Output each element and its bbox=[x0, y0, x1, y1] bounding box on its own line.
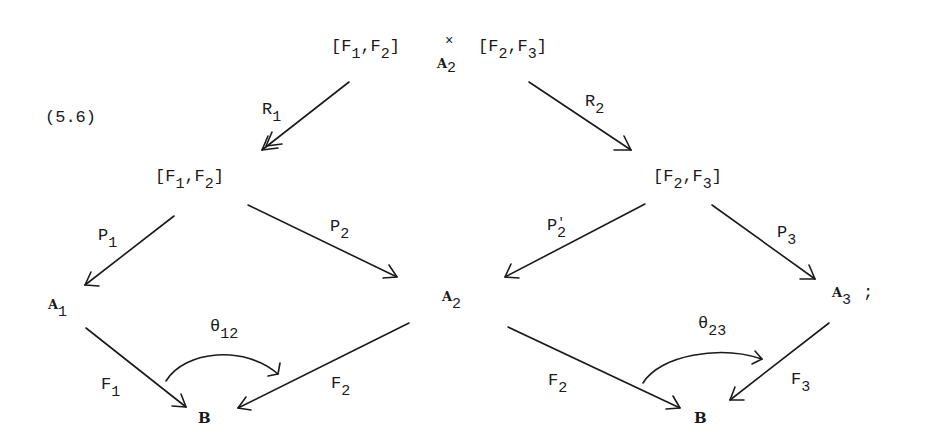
label-f3: F3 bbox=[791, 371, 810, 388]
node-b-right: B bbox=[694, 411, 707, 426]
commutative-diagram: (5.6) [F1,F2] × A2 [F2,F3] R1 R2 [F1,F2]… bbox=[0, 0, 926, 446]
node-top-left: [F1,F2] bbox=[331, 38, 400, 55]
node-top-right: [F2,F3] bbox=[478, 38, 547, 55]
equation-label: (5.6) bbox=[45, 109, 96, 126]
arrow-f2-right bbox=[508, 327, 680, 409]
label-p2: P2 bbox=[330, 218, 349, 235]
arrow-r2 bbox=[529, 82, 631, 150]
arrow-p2 bbox=[248, 205, 397, 278]
node-a1: A1 bbox=[48, 296, 67, 313]
node-a3: A3; bbox=[832, 284, 873, 301]
arrow-f3 bbox=[730, 323, 829, 400]
node-a2: A2 bbox=[442, 288, 461, 305]
node-mid-left: [F1,F2] bbox=[155, 168, 224, 185]
arrow-p3 bbox=[712, 205, 815, 279]
label-r2: R2 bbox=[585, 93, 604, 110]
arrow-p2-prime bbox=[505, 204, 645, 278]
label-p2-prime: P'2 bbox=[547, 217, 566, 234]
node-mid-right: [F2,F3] bbox=[653, 168, 722, 185]
label-p3: P3 bbox=[777, 224, 796, 241]
arrow-f2-left bbox=[238, 323, 409, 410]
arrow-theta23 bbox=[643, 351, 762, 383]
node-b-left: B bbox=[198, 411, 211, 426]
label-theta23: θ23 bbox=[698, 315, 726, 332]
fiber-product-base: A2 bbox=[437, 55, 456, 72]
label-f1: F1 bbox=[101, 376, 120, 393]
arrow-theta12 bbox=[166, 355, 280, 381]
label-p1: P1 bbox=[98, 227, 117, 244]
label-f2-right: F2 bbox=[548, 372, 567, 389]
arrow-f1 bbox=[86, 328, 186, 407]
label-r1: R1 bbox=[262, 101, 281, 118]
label-f2-left: F2 bbox=[331, 375, 350, 392]
label-theta12: θ12 bbox=[210, 318, 238, 335]
fiber-product-symbol: × bbox=[445, 33, 453, 49]
